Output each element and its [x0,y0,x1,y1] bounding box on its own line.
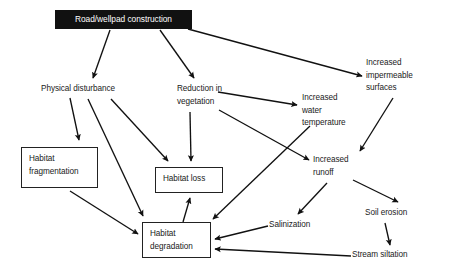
node-impermeable_surfaces: Increased impermeable surfaces [366,57,438,95]
edge-physical_disturbance-to-habitat_fragmentation [70,98,79,140]
edge-road-to-physical_disturbance [93,30,110,78]
node-habitat_degradation: Habitat degradation [142,222,211,258]
edge-increased_runoff-to-soil_erosion [353,180,398,202]
node-road: Road/wellpad construction [55,10,192,29]
node-increased_runoff: Increased runoff [313,154,375,179]
edge-road-to-impermeable_surfaces [188,29,362,76]
edge-habitat_degradation-to-habitat_loss [183,198,190,222]
edges [70,29,398,256]
edge-increased_runoff-to-salinization [298,183,327,214]
node-habitat_loss: Habitat loss [155,167,223,193]
flowchart-diagram: Road/wellpad constructionPhysical distur… [0,0,450,271]
edge-layer [0,0,450,271]
edge-soil_erosion-to-stream_siltation [385,223,390,245]
edge-stream_siltation-to-habitat_degradation [215,249,351,256]
edge-reduction_vegetation-to-habitat_loss [190,112,191,161]
edge-reduction_vegetation-to-increased_runoff [219,110,309,160]
node-salinization: Salinization [269,219,326,232]
node-stream_siltation: Stream siltation [352,249,424,262]
node-soil_erosion: Soil erosion [365,207,423,220]
node-water_temperature: Increased water temperature [302,92,368,130]
node-physical_disturbance: Physical disturbance [41,83,147,96]
node-reduction_vegetation: Reduction in vegetation [177,83,247,108]
edge-physical_disturbance-to-habitat_loss [111,99,168,161]
edge-habitat_fragmentation-to-habitat_degradation [70,191,138,234]
edge-salinization-to-habitat_degradation [215,226,268,239]
edge-water_temperature-to-habitat_degradation [213,126,310,219]
node-habitat_fragmentation: Habitat fragmentation [21,147,98,188]
edge-road-to-reduction_vegetation [160,30,194,78]
